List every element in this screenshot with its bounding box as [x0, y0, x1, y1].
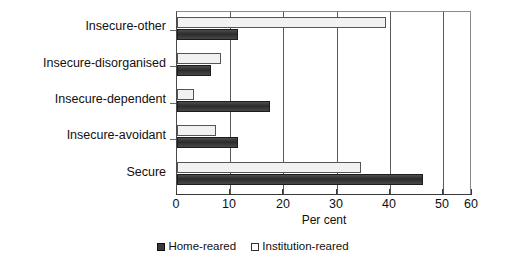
y-tick-2: [170, 103, 176, 104]
y-tick-0: [170, 30, 176, 31]
bar-home-reared-insecure-other: [177, 29, 238, 40]
legend-label-home-reared: Home-reared: [168, 240, 236, 252]
category-label-secure: Secure: [0, 166, 166, 179]
plot-area: [176, 11, 471, 195]
bar-institution-reared-secure: [177, 162, 361, 173]
gridline-50: [443, 12, 444, 195]
category-axis-labels: Insecure-other Insecure-disorganised Ins…: [0, 10, 172, 195]
bar-chart: Insecure-other Insecure-disorganised Ins…: [0, 0, 506, 263]
x-tick-20: [282, 189, 283, 195]
bar-institution-reared-insecure-avoidant: [177, 125, 216, 136]
gridline-40: [390, 12, 391, 195]
x-tick-label-30: 30: [316, 197, 356, 211]
bar-institution-reared-insecure-dependent: [177, 89, 194, 100]
x-axis-title: Per cent: [176, 213, 472, 227]
bar-institution-reared-insecure-disorganised: [177, 53, 221, 64]
legend-item-institution-reared: Institution-reared: [251, 240, 348, 252]
bar-institution-reared-insecure-other: [177, 17, 386, 28]
x-tick-label-0: 0: [156, 197, 196, 211]
x-tick-40: [389, 189, 390, 195]
legend-item-home-reared: Home-reared: [157, 240, 236, 252]
x-tick-10: [229, 189, 230, 195]
filled-square-icon: [157, 243, 165, 251]
x-tick-label-40: 40: [369, 197, 409, 211]
category-label-insecure-avoidant: Insecure-avoidant: [0, 129, 166, 142]
x-tick-30: [336, 189, 337, 195]
y-tick-1: [170, 66, 176, 67]
bar-home-reared-insecure-avoidant: [177, 137, 238, 148]
x-tick-60: [471, 189, 472, 195]
x-tick-label-60: 60: [451, 197, 491, 211]
x-tick-0: [176, 189, 177, 195]
x-tick-50: [442, 189, 443, 195]
legend-label-institution-reared: Institution-reared: [262, 240, 348, 252]
bar-home-reared-insecure-dependent: [177, 101, 270, 112]
category-label-insecure-other: Insecure-other: [0, 20, 166, 33]
x-tick-label-20: 20: [263, 197, 303, 211]
empty-square-icon: [251, 243, 259, 251]
x-tick-label-10: 10: [209, 197, 249, 211]
chart-legend: Home-reared Institution-reared: [0, 240, 506, 252]
category-label-insecure-dependent: Insecure-dependent: [0, 93, 166, 106]
x-axis-line: [176, 194, 472, 195]
bar-home-reared-secure: [177, 174, 423, 185]
bar-home-reared-insecure-disorganised: [177, 65, 211, 76]
y-tick-3: [170, 139, 176, 140]
category-label-insecure-disorganised: Insecure-disorganised: [0, 57, 166, 70]
